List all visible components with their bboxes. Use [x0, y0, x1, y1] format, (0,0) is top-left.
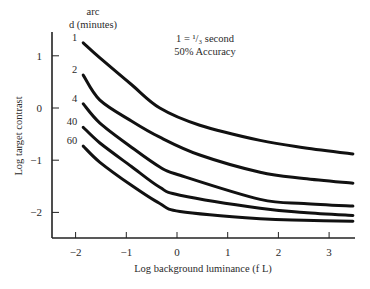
- x-tick-label: −2: [70, 246, 82, 258]
- annotation-duration: 1 = ¹/₃ second: [176, 33, 235, 44]
- curve-1: [83, 43, 353, 154]
- legend-title-line2: d (minutes): [69, 19, 118, 31]
- x-tick-label: 3: [326, 246, 332, 258]
- x-tick-label: 0: [174, 246, 180, 258]
- x-tick-label: −1: [120, 246, 132, 258]
- y-axis-label: Log target contrast: [13, 96, 24, 175]
- y-tick-label: −1: [30, 154, 42, 166]
- curve-label-40: 40: [67, 116, 78, 127]
- curves: 1244060: [67, 32, 353, 222]
- curve-4: [83, 104, 353, 206]
- x-tick-label: 2: [276, 246, 282, 258]
- curve-60: [83, 146, 353, 221]
- legend-title-line1: arc: [87, 6, 100, 17]
- curve-label-4: 4: [72, 93, 78, 104]
- chart: −2−1012310−1−2 1244060 arc d (minutes) 1…: [0, 0, 370, 289]
- y-tick-label: 0: [37, 102, 43, 114]
- annotation-accuracy: 50% Accuracy: [174, 46, 236, 57]
- x-axis-label: Log background luminance (f L): [134, 263, 272, 275]
- axis-ticks: −2−1012310−1−2: [30, 50, 332, 258]
- x-tick-label: 1: [225, 246, 231, 258]
- y-tick-label: 1: [37, 50, 43, 62]
- curve-label-60: 60: [67, 135, 78, 146]
- curve-label-2: 2: [72, 64, 77, 75]
- curve-label-1: 1: [72, 32, 77, 43]
- y-tick-label: −2: [30, 206, 42, 218]
